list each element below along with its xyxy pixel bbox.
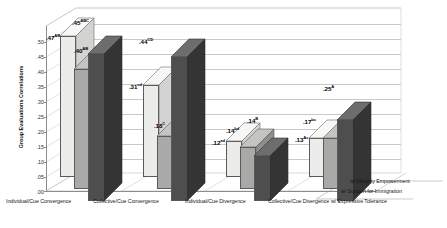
y-tick-label: .35 [36,84,44,90]
value-label-g0-minority-empowerment: .45ABC [72,18,89,26]
y-tick-label: .05 [36,174,44,180]
y-tick-label: .25 [36,114,44,120]
y-tick-mark [44,177,47,178]
y-axis-line [46,26,47,191]
value-superscript: AB [54,33,60,38]
value-superscript: AB [82,46,88,51]
gridline [76,39,401,40]
x-axis-label-collective-cue-divergence: Collective/Cue Divergence [268,198,329,204]
value-superscript: bd [234,126,239,131]
legend-label-expressive-tolerance: w/ Expressive Tolerance [331,198,387,204]
legend-label-minority-empowerment: w/ Minority Empowerment [350,178,410,184]
value-label-g2-minority-empowerment: .14B [247,116,258,124]
y-tick-label: .30 [36,99,44,105]
y-tick-mark [44,42,47,43]
y-tick-label: .50 [36,39,44,45]
value-label-g3-support-immigration: .17bc [303,117,316,125]
value-label-g2-support-immigration: .14bd [226,126,239,134]
bar-g2-minority-empowerment [254,156,270,201]
gridline [76,84,401,85]
value-label-g1-minority-empowerment: .44CD [139,37,153,45]
value-superscript: B [255,116,258,121]
value-superscript: A [331,84,334,89]
y-tick-mark [44,162,47,163]
value-superscript: Ac [303,135,308,140]
y-tick-label: .10 [36,159,44,165]
y-tick-label: .45 [36,54,44,60]
value-label-g1-support-immigration: .18C [154,121,165,129]
legend-label-support-for-immigration: w/ Support for Immigration [341,188,402,194]
y-tick-mark [44,87,47,88]
value-label-g3-expressive-tolerance: .13Ac [295,135,308,143]
gridline [76,69,401,70]
y-tick-mark [44,132,47,133]
value-label-g2-expressive-tolerance: .12ad [212,138,225,146]
y-tick-label: .40 [36,69,44,75]
y-tick-label: .15 [36,144,44,150]
value-superscript: CD [147,37,153,42]
value-label-g0-support-immigration: .40AB [74,46,88,54]
chart-figure: Group Evaluations Correlations .50 .45 .… [0,0,447,228]
value-superscript: ABC [80,18,89,23]
value-superscript: ad [220,138,225,143]
x-axis-label-collective-cue-convergence: Collective/Cue Convergence [93,198,159,204]
y-tick-label: .20 [36,129,44,135]
value-label-g1-expressive-tolerance: .31cd [129,82,142,90]
y-tick-mark [44,117,47,118]
y-tick-mark [44,147,47,148]
x-axis-label-individual-cue-divergence: Individual/Cue Divergence [185,198,246,204]
gridline [76,24,401,25]
bar-g1-minority-empowerment [171,57,187,201]
x-axis-label-individual-cue-convergence: Individual/Cue Convergence [6,198,71,204]
y-axis-ticks: .50 .45 .40 .35 .30 .25 .20 .15 .10 .05 … [18,0,44,228]
y-tick-label: .00 [36,189,44,195]
value-superscript: cd [137,82,142,87]
y-tick-mark [44,191,47,192]
y-tick-mark [44,57,47,58]
y-tick-mark [44,72,47,73]
gridline [76,54,401,55]
value-label-g0-expressive-tolerance: .47AB [46,33,60,41]
bar-g0-minority-empowerment [88,54,104,201]
y-tick-mark [44,102,47,103]
value-superscript: C [162,121,165,126]
gridline [76,99,401,100]
value-superscript: bc [311,117,316,122]
value-label-g3-minority-empowerment: .25A [323,84,334,92]
